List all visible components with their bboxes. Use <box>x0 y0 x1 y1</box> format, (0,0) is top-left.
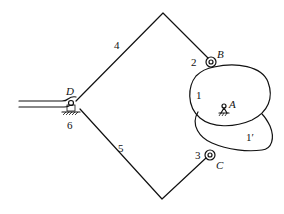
roller-c-outer-icon <box>205 150 215 160</box>
cam-1 <box>190 65 271 126</box>
roller-b-outer-icon <box>206 57 216 67</box>
label-a: A <box>228 98 236 110</box>
roller-c-inner-icon <box>208 153 212 157</box>
pivot-d-ground <box>62 101 80 116</box>
label-cam-1-prime: 1′ <box>246 131 254 143</box>
label-cam-1: 1 <box>196 89 202 101</box>
label-b: B <box>217 48 224 60</box>
cam-1-prime <box>195 112 272 151</box>
label-c: C <box>216 159 224 171</box>
roller-c <box>205 150 215 160</box>
diagram-canvas: D 4 5 6 B 2 1 A 1′ 3 C <box>0 0 284 214</box>
cam-mechanism-diagram: D 4 5 6 B 2 1 A 1′ 3 C <box>0 0 284 214</box>
label-link-4: 4 <box>114 39 120 51</box>
pivot-a-ground <box>219 104 229 116</box>
label-link-5: 5 <box>118 142 124 154</box>
label-d: D <box>65 85 74 97</box>
link-5 <box>80 109 206 199</box>
link-4 <box>76 13 208 101</box>
label-roller-3: 3 <box>195 149 201 161</box>
label-frame-6: 6 <box>67 119 73 131</box>
roller-b-inner-icon <box>209 60 213 64</box>
input-shaft <box>19 97 76 107</box>
roller-b <box>206 57 216 67</box>
label-roller-2: 2 <box>191 56 197 68</box>
